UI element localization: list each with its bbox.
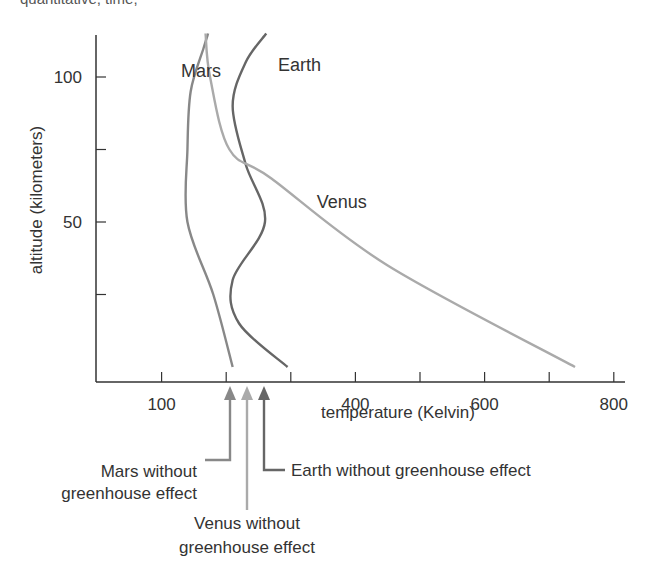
x-tick-label: 800 — [600, 395, 628, 414]
venus-ref-label-2: greenhouse effect — [179, 538, 315, 557]
venus-label: Venus — [317, 192, 367, 212]
y-tick-labels: 50100 — [54, 68, 82, 232]
venus-ref-label-1: Venus without — [194, 514, 300, 533]
x-ticks — [162, 372, 614, 382]
reference-arrows — [205, 386, 285, 510]
mars-ref-label-1: Mars without — [101, 462, 198, 481]
earth-arrow — [264, 396, 285, 470]
mars-label: Mars — [181, 61, 221, 81]
y-axis-label: altitude (kilometers) — [27, 126, 46, 274]
y-tick-label: 100 — [54, 68, 82, 87]
temperature-altitude-chart: 100400600800 50100 temperature (Kelvin) … — [0, 0, 646, 575]
earth-arrowhead-icon — [258, 386, 270, 400]
x-axis-label: temperature (Kelvin) — [321, 403, 475, 422]
venus-arrowhead-icon — [241, 386, 253, 400]
series-labels: MarsEarthVenus — [181, 55, 367, 211]
y-ticks — [96, 77, 106, 295]
mars-curve — [185, 34, 232, 368]
y-tick-label: 50 — [63, 213, 82, 232]
reference-labels: Mars without greenhouse effect Venus wit… — [61, 461, 531, 557]
mars-arrowhead-icon — [224, 386, 236, 400]
series-lines — [185, 34, 575, 368]
earth-ref-label: Earth without greenhouse effect — [291, 461, 531, 480]
earth-curve — [230, 34, 287, 368]
mars-ref-label-2: greenhouse effect — [61, 484, 197, 503]
earth-label: Earth — [278, 55, 321, 75]
x-tick-label: 100 — [147, 395, 175, 414]
mars-arrow — [205, 396, 230, 460]
